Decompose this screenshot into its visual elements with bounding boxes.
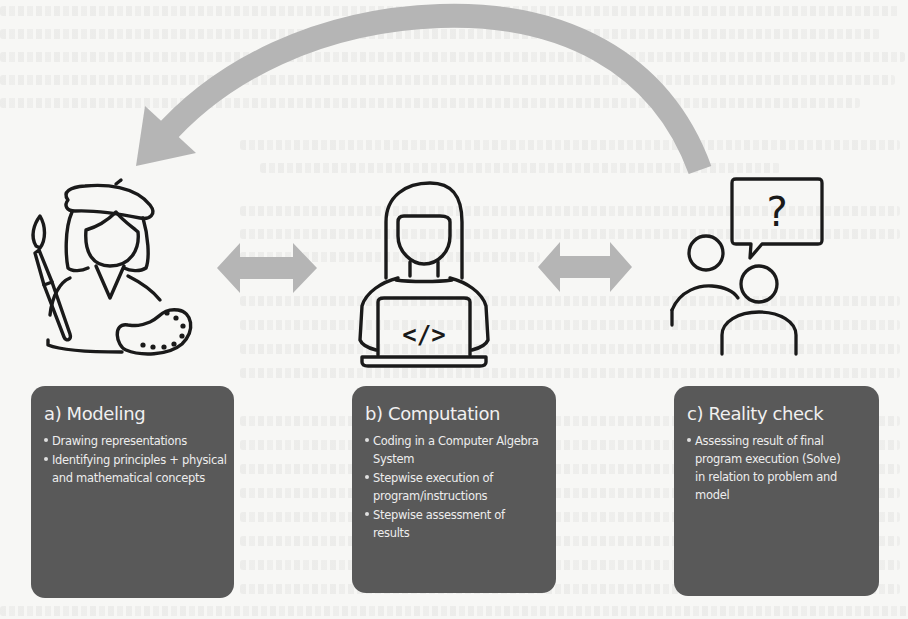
double-arrow-icon	[217, 243, 317, 293]
stage-bullets: Assessing result of final program execut…	[687, 432, 867, 504]
stage-box-reality-check: c) Reality check Assessing result of fin…	[674, 386, 879, 596]
stage-box-computation: b) Computation Coding in a Computer Alge…	[352, 386, 556, 593]
bullet-item: Assessing result of final program execut…	[687, 432, 845, 504]
bullet-item: Stepwise execution of program/instructio…	[365, 469, 544, 505]
bullet-item: Stepwise assessment of results	[365, 506, 544, 542]
code-glyph: </>	[402, 321, 445, 349]
palette-paint-dots	[140, 310, 185, 349]
bullet-item: Drawing representations	[44, 432, 192, 450]
bullet-item: Identifying principles + physical and ma…	[44, 451, 227, 487]
question-mark-glyph: ?	[766, 189, 787, 235]
bullet-item: Coding in a Computer Algebra System	[365, 432, 544, 468]
stage-bullets: Drawing representations Identifying prin…	[44, 432, 222, 487]
stage-title: b) Computation	[365, 402, 544, 426]
people-question-icon	[672, 179, 822, 354]
stage-title: c) Reality check	[687, 402, 867, 426]
double-arrow-icon	[538, 242, 632, 292]
stage-title: a) Modeling	[44, 402, 222, 426]
stage-box-modeling: a) Modeling Drawing representations Iden…	[31, 386, 234, 598]
stage-bullets: Coding in a Computer Algebra System Step…	[365, 432, 544, 542]
artist-with-palette-icon	[33, 180, 191, 354]
curved-arrow-icon	[136, 16, 700, 170]
